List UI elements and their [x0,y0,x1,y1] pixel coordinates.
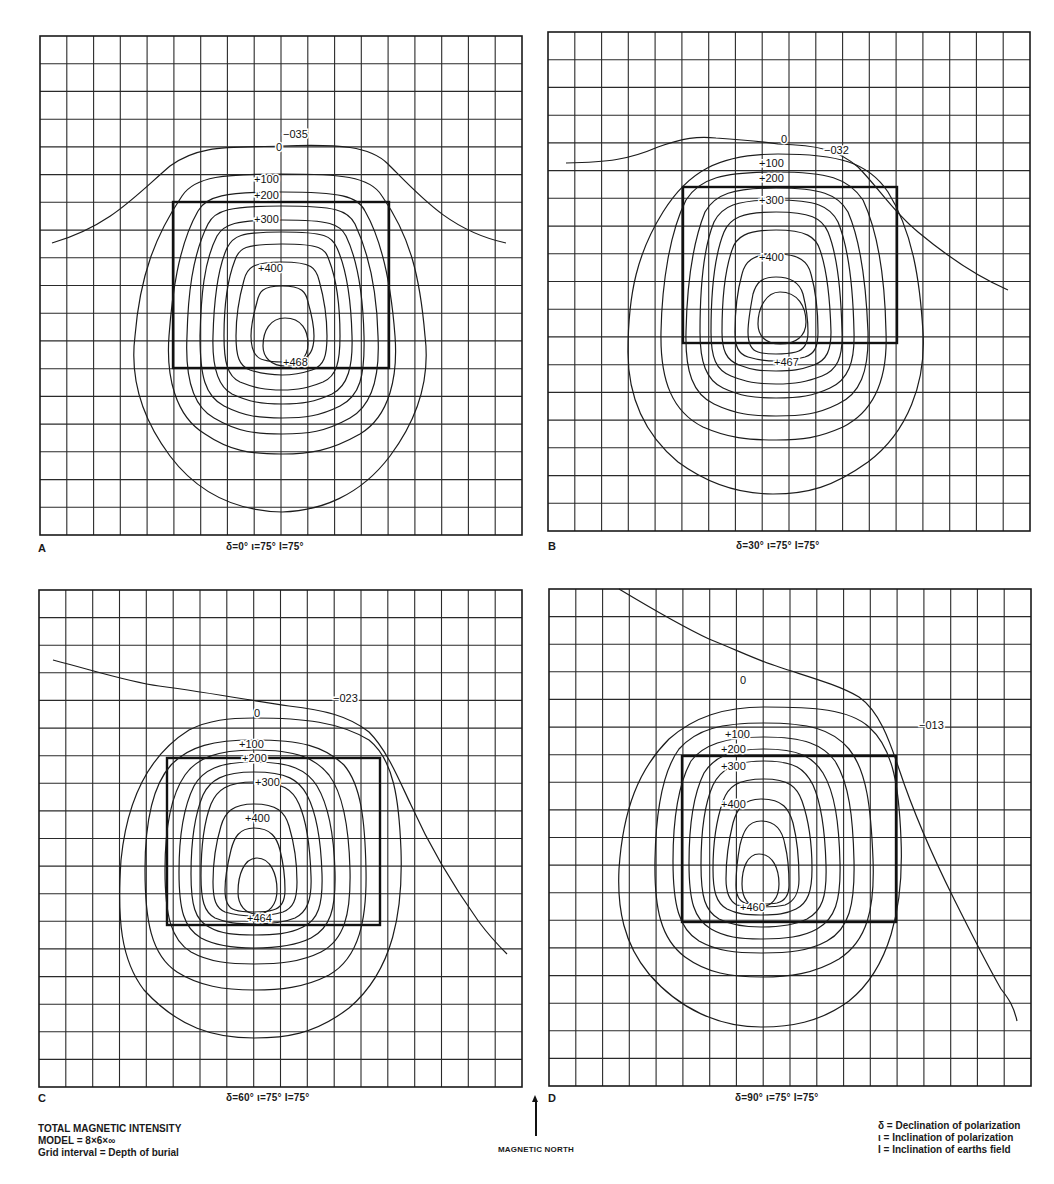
svg-text:+100: +100 [759,157,784,169]
panel-c: 0 +100 +200 +300 +400 −023 +464 [39,590,522,1088]
figure-caption [320,1172,840,1178]
legend-grid: Grid interval = Depth of burial [38,1147,181,1159]
magnetic-north-indicator: MAGNETIC NORTH [496,1100,576,1154]
svg-text:+400: +400 [245,812,270,824]
svg-text:+100: +100 [254,173,279,185]
panel-d-params: δ=90° ι=75° I=75° [735,1092,818,1103]
panel-c-params: δ=60° ι=75° I=75° [226,1092,309,1103]
svg-text:0: 0 [740,674,746,686]
svg-text:+200: +200 [254,189,279,201]
contour-labels: 0 +100 +200 +300 +400 −013 +460 [721,674,944,913]
svg-text:+467: +467 [774,356,799,368]
svg-text:+400: +400 [258,262,283,274]
svg-text:+468: +468 [283,356,308,368]
svg-text:+300: +300 [759,194,784,206]
svg-text:+460: +460 [740,901,765,913]
svg-text:+464: +464 [247,912,272,924]
panel-d: 0 +100 +200 +300 +400 −013 +460 [549,589,1031,1087]
svg-text:+300: +300 [255,776,280,788]
legend-inclination-field: I = Inclination of earths field [878,1144,1020,1156]
panel-b: 0 +100 +200 +300 +400 −032 +467 [548,32,1030,532]
panel-b-label: B [548,540,556,552]
svg-text:+100: +100 [239,738,264,750]
svg-text:−013: −013 [919,719,944,731]
grid [549,589,1031,1086]
contours [619,589,1017,1027]
legend-inclination-polarization: ι = Inclination of polarization [878,1132,1020,1144]
svg-text:+400: +400 [721,798,746,810]
panel-b-params: δ=30° ι=75° I=75° [736,540,819,551]
legend-title: TOTAL MAGNETIC INTENSITY [38,1123,181,1135]
svg-text:+300: +300 [254,213,279,225]
legend-declination: δ = Declination of polarization [878,1120,1020,1132]
svg-text:−032: −032 [824,144,849,156]
contour-map-d: 0 +100 +200 +300 +400 −013 +460 [549,589,1031,1087]
legend-model: MODEL = 8×6×∞ [38,1135,181,1147]
grid [548,32,1030,531]
svg-text:0: 0 [254,707,260,719]
panel-a: 0 +100 +200 +300 +400 −035 +468 [40,36,522,536]
svg-text:−035: −035 [283,128,308,140]
contour-map-a: 0 +100 +200 +300 +400 −035 +468 [40,36,522,536]
panel-a-params: δ=0° ι=75° I=75° [226,541,304,552]
svg-text:−023: −023 [333,692,358,704]
symbol-legend: δ = Declination of polarization ι = Incl… [878,1120,1020,1156]
svg-text:+100: +100 [725,728,750,740]
contours [566,137,1008,494]
contour-map-c: 0 +100 +200 +300 +400 −023 +464 [39,590,522,1088]
contour-map-b: 0 +100 +200 +300 +400 −032 +467 [548,32,1030,532]
panel-c-label: C [38,1092,46,1104]
svg-text:+400: +400 [759,251,784,263]
model-legend: TOTAL MAGNETIC INTENSITY MODEL = 8×6×∞ G… [38,1123,181,1159]
north-arrow-icon [535,1100,537,1136]
north-label: MAGNETIC NORTH [496,1145,576,1154]
grid [39,590,522,1087]
svg-text:+200: +200 [242,752,267,764]
svg-text:0: 0 [781,133,787,145]
svg-text:+300: +300 [721,760,746,772]
svg-text:0: 0 [276,141,282,153]
svg-text:+200: +200 [759,172,784,184]
svg-text:+200: +200 [721,743,746,755]
panel-a-label: A [38,542,46,554]
